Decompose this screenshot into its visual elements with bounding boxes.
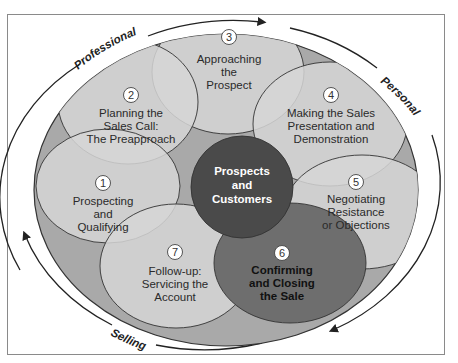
step-6-line-1: Confirming [251,264,312,276]
step-1-line-2: and [93,208,112,220]
step-3-number: 3 [226,31,232,43]
step-2-line-1: Planning the [99,107,163,119]
sales-process-diagram: Professional Personal Selling Prospects … [0,0,458,363]
step-7-line-1: Follow-up: [148,265,201,277]
step-1-number: 1 [100,177,106,189]
step-5-line-3: or Objections [322,219,390,231]
step-6-line-3: the Sale [260,290,304,302]
step-5-line-2: Resistance [328,206,385,218]
step-2-line-2: Sales Call: [104,120,159,132]
step-5-line-1: Negotiating [327,193,385,205]
step-5-number: 5 [353,176,359,188]
step-3-line-3: Prospect [206,79,252,91]
step-4-line-2: Presentation and [288,120,375,132]
step-4-line-3: Demonstration [294,133,369,145]
step-4-number: 4 [328,89,334,101]
center-line-1: Prospects [214,165,270,177]
step-7-number: 7 [172,246,178,258]
center-line-2: and [232,179,252,191]
step-6-number: 6 [279,247,285,259]
step-2-line-3: The Preapproach [87,133,176,145]
step-7-line-2: Servicing the [142,278,208,290]
step-3-line-2: the [221,66,237,78]
step-2-number: 2 [128,89,134,101]
step-7-line-3: Account [154,291,196,303]
step-1-line-3: Qualifying [77,221,128,233]
step-4-line-1: Making the Sales [287,107,375,119]
step-3-line-1: Approaching [197,53,262,65]
center-line-3: Customers [212,193,272,205]
step-6-line-2: and Closing [249,277,315,289]
step-1-line-1: Prospecting [73,195,134,207]
